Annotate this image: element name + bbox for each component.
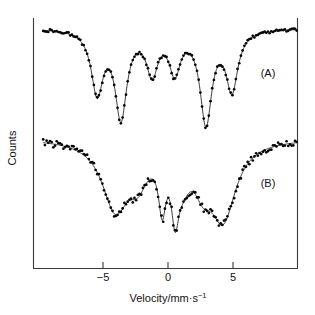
data-point — [211, 87, 214, 90]
data-point — [111, 209, 114, 212]
data-point — [108, 200, 111, 203]
data-point — [67, 145, 70, 148]
data-point — [126, 80, 129, 83]
data-point — [123, 104, 126, 107]
data-point — [243, 44, 246, 47]
data-point — [233, 88, 236, 91]
data-point — [170, 206, 173, 209]
data-point — [229, 91, 232, 94]
data-point — [147, 177, 150, 180]
moessbauer-spectrum-figure: −5 0 5 Velocity/mm·s−1 Counts (A) (B) — [0, 0, 315, 315]
data-point — [109, 70, 112, 73]
data-point — [79, 38, 82, 41]
data-point — [106, 197, 109, 200]
data-point — [236, 185, 239, 188]
data-point — [275, 145, 278, 148]
data-point — [115, 95, 118, 98]
data-point — [197, 78, 200, 81]
data-point — [98, 94, 101, 97]
data-point — [231, 201, 234, 204]
data-point — [253, 155, 256, 158]
y-axis-title: Counts — [6, 130, 18, 165]
data-point — [167, 196, 170, 199]
data-point — [221, 224, 224, 227]
data-point — [140, 53, 143, 56]
data-point — [175, 229, 178, 232]
data-point — [209, 100, 212, 103]
data-point — [86, 53, 89, 56]
data-point — [145, 63, 148, 66]
data-point — [172, 224, 175, 227]
data-point — [98, 173, 101, 176]
data-point — [241, 49, 244, 52]
data-point — [84, 49, 87, 52]
data-point — [191, 54, 194, 57]
data-point — [96, 96, 99, 99]
data-point — [72, 145, 75, 148]
data-point — [231, 94, 234, 97]
spectrum-series-a — [42, 27, 298, 129]
data-point — [270, 148, 273, 151]
data-point — [111, 76, 114, 79]
data-point — [256, 154, 259, 157]
data-point — [284, 144, 287, 147]
data-point — [295, 29, 298, 32]
data-point — [221, 65, 224, 68]
data-point — [164, 207, 167, 210]
data-point — [47, 31, 50, 34]
data-point — [162, 220, 165, 223]
data-point — [101, 82, 104, 85]
data-point — [228, 87, 231, 90]
data-point — [295, 140, 298, 143]
data-point — [182, 54, 185, 57]
data-point — [138, 51, 141, 54]
data-point — [87, 59, 90, 62]
data-point — [179, 209, 182, 212]
data-point — [118, 118, 121, 121]
data-point — [157, 61, 160, 64]
data-point — [179, 63, 182, 66]
series-label-b: (B) — [261, 177, 276, 189]
data-point — [143, 58, 146, 61]
data-point — [120, 211, 123, 214]
data-point — [133, 197, 136, 200]
data-point — [135, 199, 138, 202]
data-point — [218, 224, 221, 227]
data-point — [99, 178, 102, 181]
data-point — [180, 58, 183, 61]
data-point — [240, 177, 243, 180]
data-point — [235, 78, 238, 81]
data-point — [177, 68, 180, 71]
data-point — [285, 140, 288, 143]
data-point — [207, 212, 210, 215]
data-point — [206, 210, 209, 213]
data-point — [175, 73, 178, 76]
data-point — [174, 77, 177, 80]
data-point — [235, 190, 238, 193]
data-point — [246, 161, 249, 164]
data-point — [101, 182, 104, 185]
x-tick-label-0: 0 — [165, 271, 171, 283]
data-point — [228, 208, 231, 211]
data-point — [147, 67, 150, 70]
x-tick-label-5: 5 — [230, 271, 236, 283]
data-point — [109, 206, 112, 209]
data-point — [99, 89, 102, 92]
data-point — [241, 168, 244, 171]
data-point — [125, 203, 128, 206]
data-point — [224, 74, 227, 77]
data-point — [50, 141, 53, 144]
data-point — [82, 44, 85, 47]
data-point — [87, 158, 90, 161]
data-point — [292, 144, 295, 147]
data-point — [131, 201, 134, 204]
data-point — [177, 215, 180, 218]
data-point — [42, 138, 45, 141]
data-point — [223, 68, 226, 71]
data-point — [130, 197, 133, 200]
data-point — [216, 219, 219, 222]
data-point — [182, 200, 185, 203]
data-point — [170, 72, 173, 75]
data-point — [128, 71, 131, 74]
data-point — [160, 214, 163, 217]
